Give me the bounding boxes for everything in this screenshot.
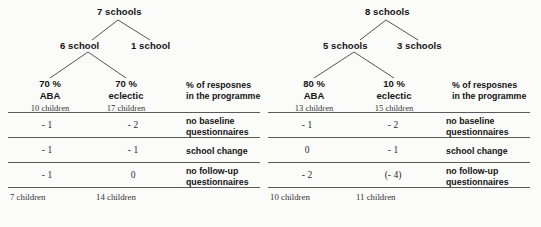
leaf-kind: eclectic (88, 90, 164, 102)
panel-left: 7 schools 6 school 1 school 70 % ABA 10 … (0, 0, 270, 227)
cell-label: school change (446, 146, 536, 157)
tree-node-root: 7 schools (97, 6, 142, 17)
panel-right: 8 schools 5 schools 3 schools 80 % ABA 1… (266, 0, 536, 227)
label-line-2: questionnaires (186, 177, 249, 187)
total-col2: 11 children (356, 192, 396, 202)
cell-col1: 0 (268, 145, 346, 155)
cell-col2: 0 (94, 170, 172, 180)
legend-line-1: % of resposnes (186, 80, 260, 91)
label-line-2: questionnaires (446, 127, 509, 137)
table-row: - 1 0 no follow-up questionnaires (8, 162, 260, 187)
leaf-kind: ABA (12, 90, 88, 102)
leaf-kind: eclectic (356, 90, 432, 102)
legend-right: % of resposnes in the programme (452, 80, 526, 102)
leaf-percent: 70 % (88, 78, 164, 90)
total-col2: 14 children (96, 192, 136, 202)
label-line-1: school change (446, 146, 508, 156)
table-row: - 1 - 2 no baseline questionnaires (268, 112, 520, 137)
cell-label: school change (186, 146, 276, 157)
cell-col1: - 1 (268, 120, 346, 130)
leaf-percent: 80 % (276, 78, 352, 90)
total-col1: 10 children (270, 192, 310, 202)
label-line-1: no baseline (446, 116, 494, 126)
label-line-1: no baseline (186, 116, 234, 126)
legend-line-2: in the programme (186, 91, 260, 102)
cell-col2: - 1 (94, 145, 172, 155)
label-line-1: no follow-up (446, 166, 498, 176)
legend-line-2: in the programme (452, 91, 526, 102)
table-row: 0 - 1 school change (268, 137, 520, 162)
tree-node-root: 8 schools (365, 6, 410, 17)
legend-line-1: % of resposnes (452, 80, 526, 91)
label-line-2: questionnaires (186, 127, 249, 137)
table-row: - 1 - 1 school change (8, 137, 260, 162)
table-row: - 1 - 2 no baseline questionnaires (8, 112, 260, 137)
tree-leaf-eclectic: 10 % eclectic 15 children (356, 78, 432, 114)
tree-node-level2-left: 5 schools (323, 40, 368, 51)
flow-diagram-figure: 7 schools 6 school 1 school 70 % ABA 10 … (0, 0, 541, 227)
tree-node-level2-right: 1 school (131, 40, 170, 51)
cell-label: no baseline questionnaires (446, 116, 536, 137)
cell-col2: - 1 (354, 145, 432, 155)
tree-node-level2-left: 6 school (60, 40, 99, 51)
cell-label: no follow-up questionnaires (186, 166, 276, 187)
label-line-2: questionnaires (446, 177, 509, 187)
leaf-kind: ABA (276, 90, 352, 102)
label-line-1: school change (186, 146, 248, 156)
cell-col2: (- 4) (354, 170, 432, 180)
cell-col1: - 1 (8, 145, 86, 155)
table-row: - 2 (- 4) no follow-up questionnaires (268, 162, 520, 187)
tree-leaf-aba: 70 % ABA 10 children (12, 78, 88, 114)
label-line-1: no follow-up (186, 166, 238, 176)
cell-label: no follow-up questionnaires (446, 166, 536, 187)
table-rule (268, 187, 530, 188)
cell-col1: - 2 (268, 170, 346, 180)
tree-leaf-aba: 80 % ABA 13 children (276, 78, 352, 114)
tree-node-level2-right: 3 schools (397, 40, 442, 51)
cell-col1: - 1 (8, 170, 86, 180)
leaf-percent: 70 % (12, 78, 88, 90)
total-col1: 7 children (10, 192, 45, 202)
legend-left: % of resposnes in the programme (186, 80, 260, 102)
cell-col2: - 2 (354, 120, 432, 130)
cell-label: no baseline questionnaires (186, 116, 276, 137)
table-rule (8, 187, 260, 188)
tree-leaf-eclectic: 70 % eclectic 17 children (88, 78, 164, 114)
cell-col1: - 1 (8, 120, 86, 130)
leaf-percent: 10 % (356, 78, 432, 90)
cell-col2: - 2 (94, 120, 172, 130)
